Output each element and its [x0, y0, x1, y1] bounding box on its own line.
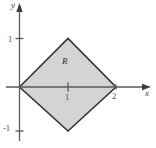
plot-canvas	[0, 0, 156, 148]
region-label-R: R	[62, 57, 68, 66]
x-axis-label: x	[145, 89, 149, 98]
figure-container: y x 1 -1 1 2 R	[0, 0, 156, 148]
y-axis-label: y	[11, 1, 15, 10]
y-tick-label-minus1: -1	[3, 124, 10, 133]
x-tick-label-2: 2	[112, 92, 116, 101]
y-tick-label-1: 1	[8, 35, 12, 44]
x-tick-label-1: 1	[65, 93, 69, 102]
y-axis-arrowhead	[16, 3, 22, 12]
